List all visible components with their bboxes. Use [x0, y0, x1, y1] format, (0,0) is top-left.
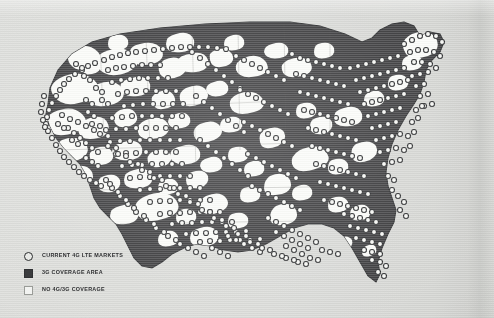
lte-market-marker	[282, 78, 287, 83]
lte-market-marker	[238, 168, 243, 173]
lte-market-marker	[396, 54, 401, 59]
lte-market-marker	[398, 132, 403, 137]
lte-market-marker	[116, 190, 121, 195]
lte-market-marker	[350, 154, 355, 159]
lte-market-marker	[440, 40, 445, 45]
lte-market-marker	[158, 199, 163, 204]
lte-market-marker	[148, 170, 153, 175]
lte-market-marker	[280, 254, 285, 259]
lte-market-marker	[242, 120, 247, 125]
lte-market-marker	[84, 141, 89, 146]
lte-market-marker	[378, 252, 383, 257]
lte-market-marker	[56, 122, 61, 127]
lte-market-marker	[356, 64, 361, 69]
lte-market-marker	[180, 114, 185, 119]
lte-market-marker	[171, 102, 176, 107]
lte-market-marker	[76, 120, 81, 125]
lte-market-marker	[398, 80, 403, 85]
lte-market-marker	[378, 98, 383, 103]
lte-market-marker	[246, 92, 251, 97]
lte-market-marker	[274, 136, 279, 141]
lte-market-marker	[356, 226, 361, 231]
lte-market-marker	[354, 172, 359, 177]
lte-market-marker	[208, 198, 213, 203]
lte-market-marker	[226, 254, 231, 259]
lte-market-marker	[136, 162, 141, 167]
lte-market-marker	[412, 60, 417, 65]
lte-market-marker	[218, 210, 223, 215]
lte-market-marker	[386, 96, 391, 101]
lte-market-marker	[214, 68, 219, 73]
lte-market-marker	[206, 62, 211, 67]
lte-market-marker	[92, 114, 97, 119]
lte-market-marker	[364, 228, 369, 233]
lte-market-marker	[266, 216, 271, 221]
legend-item-label: CURRENT 4G LTE MARKETS	[42, 253, 123, 258]
lte-market-marker	[348, 224, 353, 229]
lte-market-marker	[156, 76, 161, 81]
lte-market-marker	[416, 116, 421, 121]
lte-market-marker	[186, 246, 191, 251]
lte-market-marker	[306, 92, 311, 97]
lte-market-marker	[390, 82, 395, 87]
lte-market-marker	[194, 94, 199, 99]
lte-market-marker	[102, 58, 107, 63]
lte-market-marker	[88, 78, 93, 83]
lte-market-marker	[376, 270, 381, 275]
lte-market-marker	[80, 66, 85, 71]
lte-market-marker	[150, 162, 155, 167]
lte-market-marker	[380, 58, 385, 63]
lte-market-marker	[382, 136, 387, 141]
lte-market-marker	[128, 176, 133, 181]
lte-market-marker	[420, 104, 425, 109]
lte-market-marker	[374, 86, 379, 91]
lte-market-marker	[140, 168, 145, 173]
lte-market-marker	[134, 89, 139, 94]
lte-market-marker	[242, 130, 247, 135]
lte-market-marker	[40, 102, 45, 107]
lte-market-marker	[226, 234, 231, 239]
lte-market-marker	[386, 70, 391, 75]
lte-market-marker	[54, 94, 59, 99]
lte-market-marker	[88, 178, 93, 183]
lte-market-marker	[370, 74, 375, 79]
lte-market-marker	[158, 138, 163, 143]
lte-market-marker	[150, 114, 155, 119]
lte-market-marker	[370, 126, 375, 131]
lte-market-marker	[148, 138, 153, 143]
lte-market-marker	[149, 63, 154, 68]
lte-market-marker	[328, 250, 333, 255]
lte-market-marker	[86, 64, 91, 69]
lte-market-marker	[47, 108, 52, 113]
lte-market-marker	[164, 89, 169, 94]
lte-market-marker	[290, 238, 295, 243]
lte-market-marker	[262, 100, 267, 105]
lte-market-marker	[402, 66, 407, 71]
lte-market-marker	[274, 196, 279, 201]
lte-market-marker	[298, 232, 303, 237]
lte-market-marker	[194, 250, 199, 255]
lte-market-marker	[202, 254, 207, 259]
lte-market-marker	[43, 125, 48, 130]
lte-market-marker	[406, 78, 411, 83]
lte-market-marker	[60, 113, 65, 118]
lte-market-marker	[424, 48, 429, 53]
lte-market-marker	[378, 124, 383, 129]
lte-market-marker	[62, 155, 67, 160]
lte-market-marker	[148, 187, 153, 192]
lte-market-marker	[212, 216, 217, 221]
lte-market-marker	[180, 221, 185, 226]
lte-market-marker	[144, 150, 149, 155]
lte-market-marker	[208, 210, 213, 215]
lte-market-marker	[74, 62, 79, 67]
lte-market-marker	[334, 150, 339, 155]
lte-market-marker	[198, 186, 203, 191]
lte-market-marker	[334, 116, 339, 121]
lte-market-marker	[78, 136, 83, 141]
lte-market-marker	[420, 60, 425, 65]
lte-market-marker	[346, 136, 351, 141]
lte-market-marker	[330, 64, 335, 69]
lte-market-marker	[84, 124, 89, 129]
lte-market-marker	[350, 214, 355, 219]
lte-market-marker	[362, 208, 367, 213]
